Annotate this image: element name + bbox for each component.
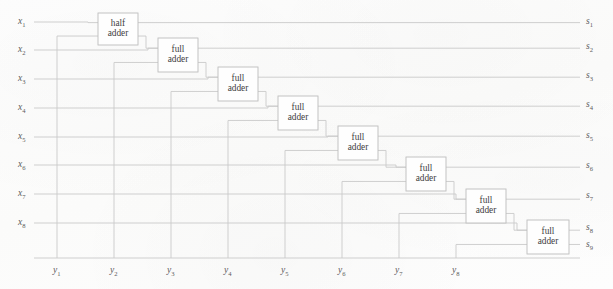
full-adder-label: fulladder xyxy=(406,163,446,184)
adder-label-line1: half xyxy=(98,18,138,28)
x-input-wire-6 xyxy=(34,165,406,167)
x-input-wire-7 xyxy=(34,194,466,199)
label-subscript: 4 xyxy=(590,104,593,111)
adder-label-line1: full xyxy=(406,163,446,173)
x-input-wire-5 xyxy=(34,136,338,137)
input-label-y1: y1 xyxy=(53,266,61,277)
label-subscript: 1 xyxy=(590,21,593,28)
label-subscript: 3 xyxy=(22,78,25,85)
output-label-s7: s7 xyxy=(586,191,593,202)
y-input-wire-3 xyxy=(171,91,218,258)
input-label-y4: y4 xyxy=(224,266,232,277)
input-label-y6: y6 xyxy=(338,266,346,277)
input-label-y5: y5 xyxy=(281,266,289,277)
output-label-s2: s2 xyxy=(586,42,593,53)
label-subscript: 4 xyxy=(22,107,25,114)
adder-label-line1: full xyxy=(218,73,258,83)
x-input-wire-8 xyxy=(34,223,527,230)
adder-label-line1: full xyxy=(466,195,506,205)
adder-label-line1: full xyxy=(278,102,318,112)
y-input-wire-6 xyxy=(342,181,406,258)
label-subscript: 9 xyxy=(590,244,593,251)
full-adder-label: fulladder xyxy=(158,44,198,65)
label-subscript: 8 xyxy=(590,227,593,234)
carry-wire-1-to-2 xyxy=(138,36,158,48)
full-adder-label: fulladder xyxy=(278,102,318,123)
label-subscript: 5 xyxy=(590,135,593,142)
output-label-s6: s6 xyxy=(586,161,593,172)
adder-label-line2: adder xyxy=(527,236,569,246)
label-subscript: 5 xyxy=(22,136,25,143)
half-adder-label: halfadder xyxy=(98,18,138,39)
adder-label-line2: adder xyxy=(338,142,378,152)
x-input-wire-3 xyxy=(34,77,218,79)
carry-wire-2-to-3 xyxy=(198,62,218,77)
adder-label-line2: adder xyxy=(98,28,138,38)
adder-label-line2: adder xyxy=(158,54,198,64)
y-input-wire-8 xyxy=(456,244,527,258)
label-subscript: 4 xyxy=(228,270,231,277)
label-subscript: 8 xyxy=(22,222,25,229)
input-label-y2: y2 xyxy=(110,266,118,277)
adder-array-diagram: halfadderfulladderfulladderfulladderfull… xyxy=(0,0,613,289)
output-label-s5: s5 xyxy=(586,131,593,142)
label-subscript: 7 xyxy=(22,193,25,200)
y-input-wire-1 xyxy=(57,36,98,258)
label-subscript: 1 xyxy=(57,270,60,277)
wiring-layer xyxy=(0,0,613,289)
label-subscript: 3 xyxy=(590,75,593,82)
adder-label-line2: adder xyxy=(406,173,446,183)
input-label-x6: x6 xyxy=(18,160,26,171)
output-label-s1: s1 xyxy=(586,17,593,28)
output-label-s4: s4 xyxy=(586,100,593,111)
adder-label-line2: adder xyxy=(218,83,258,93)
adder-label-line2: adder xyxy=(278,112,318,122)
full-adder-label: fulladder xyxy=(527,226,569,247)
input-label-y8: y8 xyxy=(452,266,460,277)
input-label-y7: y7 xyxy=(395,266,403,277)
carry-wire-7-to-8 xyxy=(506,213,527,230)
carry-wire-3-to-4 xyxy=(258,91,278,106)
label-subscript: 2 xyxy=(22,49,25,56)
adder-label-line2: adder xyxy=(466,205,506,215)
input-label-x1: x1 xyxy=(18,17,26,28)
y-input-wire-4 xyxy=(228,120,278,258)
input-label-x3: x3 xyxy=(18,74,26,85)
output-label-s8: s8 xyxy=(586,223,593,234)
full-adder-label: fulladder xyxy=(338,132,378,153)
input-label-x8: x8 xyxy=(18,218,26,229)
y-input-wire-2 xyxy=(114,62,158,258)
label-subscript: 2 xyxy=(590,46,593,53)
label-subscript: 5 xyxy=(285,270,288,277)
label-subscript: 6 xyxy=(22,164,25,171)
label-subscript: 3 xyxy=(171,270,174,277)
label-subscript: 7 xyxy=(399,270,402,277)
full-adder-label: fulladder xyxy=(218,73,258,94)
label-subscript: 8 xyxy=(456,270,459,277)
adder-label-line1: full xyxy=(158,44,198,54)
adder-label-line1: full xyxy=(527,226,569,236)
input-label-x2: x2 xyxy=(18,45,26,56)
carry-wire-4-to-5 xyxy=(318,120,338,136)
label-subscript: 7 xyxy=(590,195,593,202)
x-input-wire-1 xyxy=(34,22,98,23)
label-subscript: 6 xyxy=(590,165,593,172)
output-label-s9: s9 xyxy=(586,240,593,251)
x-input-wire-2 xyxy=(34,48,158,50)
input-label-x4: x4 xyxy=(18,103,26,114)
label-subscript: 2 xyxy=(114,270,117,277)
input-label-x7: x7 xyxy=(18,189,26,200)
x-input-wire-4 xyxy=(34,106,278,108)
input-label-y3: y3 xyxy=(167,266,175,277)
y-input-wire-5 xyxy=(285,150,338,258)
adder-label-line1: full xyxy=(338,132,378,142)
label-subscript: 6 xyxy=(342,270,345,277)
label-subscript: 1 xyxy=(22,21,25,28)
output-label-s3: s3 xyxy=(586,71,593,82)
input-label-x5: x5 xyxy=(18,132,26,143)
full-adder-label: fulladder xyxy=(466,195,506,216)
